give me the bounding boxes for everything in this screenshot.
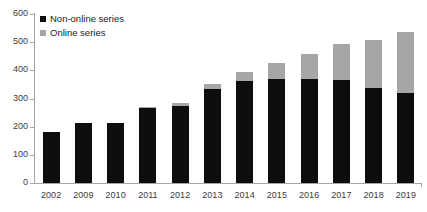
bar-2014 — [236, 72, 253, 183]
y-axis-tick — [30, 42, 34, 43]
x-axis-tick-label: 2016 — [293, 190, 325, 200]
plot-area — [35, 14, 422, 183]
y-axis-tick-label: 0 — [2, 178, 28, 187]
y-axis-tick-label: 200 — [2, 122, 28, 131]
bar-segment-online — [365, 40, 382, 88]
x-axis-tick-label: 2018 — [358, 190, 390, 200]
bar-segment-online — [397, 32, 414, 93]
y-axis-tick — [30, 127, 34, 128]
bar-2002 — [43, 132, 60, 183]
bar-2009 — [75, 123, 92, 183]
y-axis-tick-label: 100 — [2, 150, 28, 159]
bar-segment-non-online — [204, 89, 221, 183]
y-axis-tick — [30, 99, 34, 100]
x-axis-tick-label: 2002 — [35, 190, 67, 200]
x-axis-tick-label: 2011 — [132, 190, 164, 200]
x-axis-tick-label: 2017 — [325, 190, 357, 200]
y-axis-tick — [30, 14, 34, 15]
bar-segment-online — [301, 54, 318, 79]
bar-2010 — [107, 123, 124, 183]
bar-segment-non-online — [365, 88, 382, 183]
bar-segment-non-online — [397, 93, 414, 183]
x-axis-line — [34, 183, 422, 184]
bar-segment-non-online — [139, 108, 156, 183]
x-axis-tick-label: 2009 — [67, 190, 99, 200]
y-axis-tick-label: 300 — [2, 94, 28, 103]
bar-segment-non-online — [107, 123, 124, 183]
bar-2018 — [365, 40, 382, 183]
y-axis-tick — [30, 155, 34, 156]
bar-segment-non-online — [172, 106, 189, 183]
bar-segment-non-online — [75, 123, 92, 183]
bar-segment-online — [236, 72, 253, 80]
bar-2013 — [204, 84, 221, 183]
x-axis-tick-label: 2019 — [390, 190, 422, 200]
bar-chart: Non-online series Online series 01002003… — [0, 0, 427, 212]
y-axis-tick-label: 500 — [2, 37, 28, 46]
bar-2015 — [268, 63, 285, 183]
bar-2016 — [301, 54, 318, 183]
x-axis-end-tick — [421, 183, 422, 187]
bar-2011 — [139, 107, 156, 183]
x-axis-tick-label: 2012 — [164, 190, 196, 200]
y-axis-tick — [30, 183, 34, 184]
y-axis-tick-label: 400 — [2, 65, 28, 74]
bar-segment-online — [268, 63, 285, 79]
x-axis-tick-label: 2013 — [196, 190, 228, 200]
x-axis-tick-label: 2010 — [100, 190, 132, 200]
y-axis-tick — [30, 70, 34, 71]
bar-2017 — [333, 44, 350, 183]
x-axis-tick-label: 2014 — [229, 190, 261, 200]
bar-segment-non-online — [268, 79, 285, 183]
bar-2019 — [397, 32, 414, 183]
bar-segment-non-online — [43, 132, 60, 183]
x-axis-tick-label: 2015 — [261, 190, 293, 200]
bar-segment-non-online — [333, 80, 350, 183]
bar-segment-non-online — [301, 79, 318, 183]
bar-segment-online — [333, 44, 350, 80]
bar-segment-non-online — [236, 81, 253, 183]
bar-2012 — [172, 103, 189, 183]
y-axis-tick-label: 600 — [2, 9, 28, 18]
